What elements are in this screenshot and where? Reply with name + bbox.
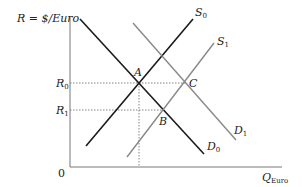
r0-tick-label: R0 xyxy=(55,77,69,91)
point-c-label: C xyxy=(189,77,198,90)
supply-curve-s0 xyxy=(86,19,193,146)
s1-label: S1 xyxy=(217,35,229,49)
s0-label: S0 xyxy=(195,6,207,20)
d1-label: D1 xyxy=(233,124,247,138)
d0-label: D0 xyxy=(206,140,220,154)
x-axis-label: QEuro xyxy=(262,171,288,185)
exchange-rate-diagram: D0 S0 D1 S1 A B C R = $/Euro R0 R1 0 QEu… xyxy=(0,0,302,187)
y-axis-label: R = $/Euro xyxy=(16,12,80,25)
point-a-label: A xyxy=(133,66,142,79)
origin-label: 0 xyxy=(58,167,65,180)
r1-tick-label: R1 xyxy=(55,104,69,118)
demand-curve-d0 xyxy=(80,19,204,154)
point-b-label: B xyxy=(158,115,167,128)
